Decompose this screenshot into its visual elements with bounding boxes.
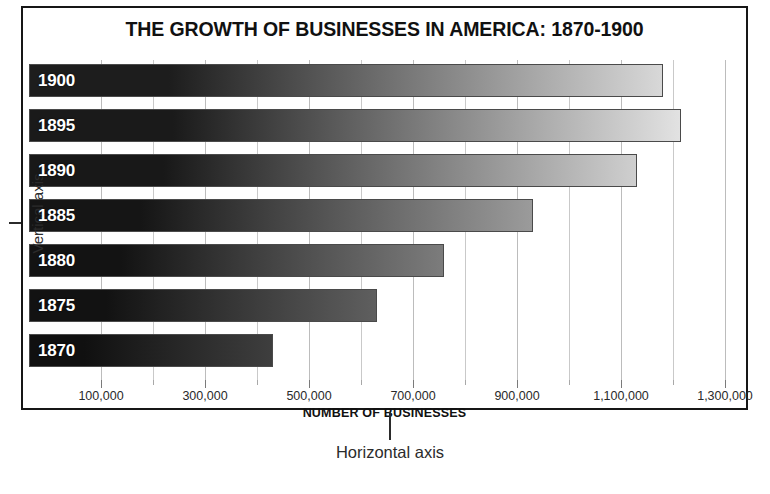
x-tick-major: [101, 380, 102, 388]
bar-category-label: 1890: [38, 161, 75, 181]
bar-row: 1895: [29, 109, 740, 142]
bar-category-label: 1880: [38, 251, 75, 271]
bar-row: 1880: [29, 244, 740, 277]
bar-1900: [29, 64, 663, 97]
plot-area: 1900189518901885188018751870: [29, 60, 740, 380]
bar-series: 1900189518901885188018751870: [29, 60, 740, 380]
bar-category-label: 1885: [38, 206, 75, 226]
horizontal-axis-annotation: Horizontal axis: [310, 443, 470, 462]
bar-row: 1875: [29, 289, 740, 322]
vertical-axis-leader-line: [9, 222, 21, 224]
x-tick-major: [413, 380, 414, 388]
horizontal-axis-leader-line: [389, 412, 391, 440]
x-tick-minor: [257, 380, 258, 385]
x-tick-minor: [465, 380, 466, 385]
bar-row: 1885: [29, 199, 740, 232]
x-tick-label: 500,000: [286, 389, 331, 403]
x-tick-major: [205, 380, 206, 388]
chart-title: THE GROWTH OF BUSINESSES IN AMERICA: 187…: [23, 18, 746, 41]
x-tick-minor: [153, 380, 154, 385]
x-tick-major: [725, 380, 726, 388]
x-tick-minor: [569, 380, 570, 385]
x-tick-label: 100,000: [78, 389, 123, 403]
bar-1895: [29, 109, 681, 142]
bar-1875: [29, 289, 377, 322]
bar-category-label: 1895: [38, 116, 75, 136]
x-axis: NUMBER OF BUSINESSES 100,000300,000500,0…: [29, 380, 740, 410]
x-tick-label: 300,000: [182, 389, 227, 403]
bar-row: 1890: [29, 154, 740, 187]
chart-figure: THE GROWTH OF BUSINESSES IN AMERICA: 187…: [21, 6, 748, 410]
x-tick-label: 1,100,000: [593, 389, 649, 403]
bar-category-label: 1900: [38, 71, 75, 91]
x-tick-label: 900,000: [494, 389, 539, 403]
bar-row: 1900: [29, 64, 740, 97]
bar-1880: [29, 244, 444, 277]
bar-1885: [29, 199, 533, 232]
bar-1890: [29, 154, 637, 187]
bar-row: 1870: [29, 334, 740, 367]
x-tick-major: [309, 380, 310, 388]
bar-category-label: 1870: [38, 341, 75, 361]
x-tick-major: [517, 380, 518, 388]
x-tick-minor: [361, 380, 362, 385]
x-tick-minor: [673, 380, 674, 385]
x-axis-label: NUMBER OF BUSINESSES: [29, 406, 740, 420]
bar-category-label: 1875: [38, 296, 75, 316]
x-tick-label: 1,300,000: [697, 389, 753, 403]
x-tick-label: 700,000: [390, 389, 435, 403]
x-tick-major: [621, 380, 622, 388]
